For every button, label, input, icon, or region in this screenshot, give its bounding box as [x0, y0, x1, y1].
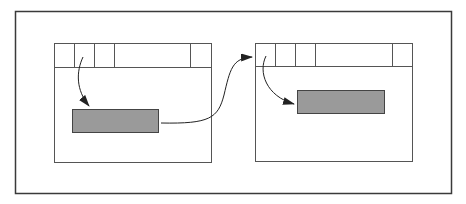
- left-window: [55, 44, 212, 163]
- diagram-canvas: [0, 0, 466, 204]
- left-highlighted-panel: [73, 110, 159, 133]
- left-window-border: [55, 44, 212, 163]
- right-highlighted-panel: [298, 91, 385, 114]
- right-window: [256, 44, 413, 162]
